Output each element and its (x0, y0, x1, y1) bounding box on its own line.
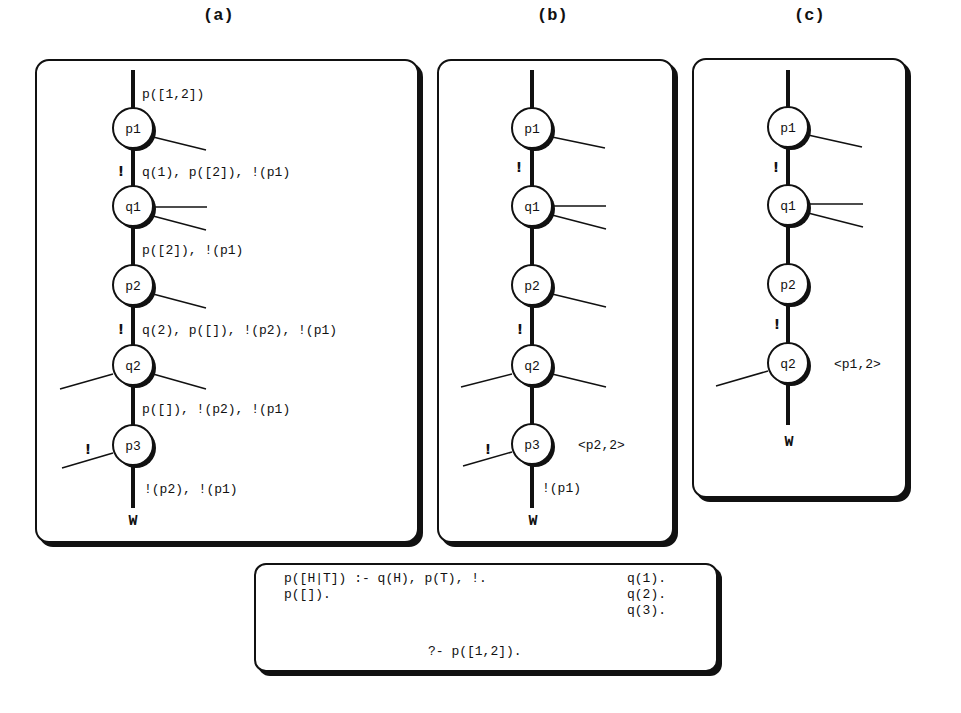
node-p1: p1 (524, 122, 540, 137)
node-q2: q2 (125, 359, 141, 374)
program-fact-2: q(2). (627, 587, 666, 602)
program-fact-3: q(3). (627, 603, 666, 618)
node-q1: q1 (125, 200, 141, 215)
node-q2: q2 (780, 357, 796, 372)
terminal-w: W (528, 513, 537, 530)
node-q1: q1 (524, 200, 540, 215)
cut-mark: ! (516, 159, 522, 175)
cut-mark: ! (85, 441, 91, 457)
node-q1: q1 (780, 199, 796, 214)
terminal-w: W (784, 434, 793, 451)
node-p3: p3 (524, 438, 540, 453)
program-clause-1: p([H|T]) :- q(H), p(T), !. (284, 571, 487, 586)
node-p2: p2 (125, 279, 141, 294)
cut-mark: ! (517, 321, 523, 337)
node-p1: p1 (780, 121, 796, 136)
cut-mark: ! (485, 441, 491, 457)
choicepoint-annotation: <p2,2> (578, 438, 625, 453)
cut-mark: ! (773, 159, 779, 175)
search-tree-diagram: p1 q1 p2 q2 p3 p([1,2]) q(1), p([2]), !(… (0, 0, 961, 713)
cut-mark: ! (118, 163, 124, 179)
program-clause-2: p([]). (284, 587, 331, 602)
goal-label-5: !(p2), !(p1) (144, 482, 238, 497)
node-p3: p3 (125, 439, 141, 454)
goal-label-1: q(1), p([2]), !(p1) (142, 165, 290, 180)
terminal-w: W (128, 513, 137, 530)
goal-label-top: p([1,2]) (142, 87, 204, 102)
goal-label-4: p([]), !(p2), !(p1) (142, 402, 290, 417)
goal-label-bottom: !(p1) (542, 481, 581, 496)
node-q2: q2 (524, 359, 540, 374)
choicepoint-annotation: <p1,2> (834, 357, 881, 372)
program-query: ?- p([1,2]). (428, 644, 522, 659)
cut-mark: ! (118, 321, 124, 337)
node-p1: p1 (125, 122, 141, 137)
goal-label-2: p([2]), !(p1) (142, 243, 243, 258)
goal-label-3: q(2), p([]), !(p2), !(p1) (142, 323, 337, 338)
cut-mark: ! (774, 316, 780, 332)
program-fact-1: q(1). (627, 571, 666, 586)
node-p2: p2 (524, 279, 540, 294)
node-p2: p2 (780, 278, 796, 293)
